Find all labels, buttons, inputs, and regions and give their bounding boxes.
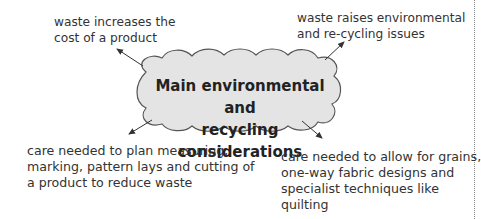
note-line: waste raises environmental [297,10,465,26]
note-line: and re-cycling issues [297,26,465,42]
note-line: a product to reduce waste [27,175,255,191]
arrow-bottom-left [129,120,152,134]
note-planning: care needed to plan measuring, marking, … [27,143,255,191]
note-line: one-way fabric designs and [281,165,481,181]
note-environmental-issues: waste raises environmental and re-cyclin… [297,10,465,42]
note-line: cost of a product [54,30,176,46]
note-line: care needed to plan measuring, [27,143,255,159]
note-line: care needed to allow for grains, [281,149,481,165]
note-cost: waste increases the cost of a product [54,14,176,46]
arrow-top-right [325,42,344,60]
note-line: specialist techniques like [281,181,481,197]
note-fabric-techniques: care needed to allow for grains, one-way… [281,149,481,213]
arrow-top-left [117,49,143,66]
note-line: waste increases the [54,14,176,30]
note-line: quilting [281,197,481,213]
central-topic-line-1: Main environmental and [150,75,330,119]
note-line: marking, pattern lays and cutting of [27,159,255,175]
